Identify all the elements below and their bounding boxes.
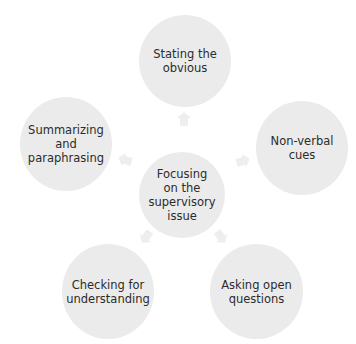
node-asking-open-questions: Asking open questions — [210, 244, 303, 339]
node-non-verbal-cues: Non-verbal cues — [256, 101, 348, 195]
node-label: Summarizing and paraphrasing — [28, 123, 104, 165]
radial-diagram: Stating the obvious Non-verbal cues Aski… — [0, 0, 356, 344]
node-stating-the-obvious: Stating the obvious — [139, 15, 231, 107]
node-label: Non-verbal cues — [271, 134, 334, 162]
node-label: Asking open questions — [221, 278, 292, 306]
node-summarizing-and-paraphrasing: Summarizing and paraphrasing — [20, 97, 112, 191]
node-label: Stating the obvious — [153, 47, 217, 75]
arrow-left-icon — [116, 151, 134, 169]
arrow-right-icon — [234, 152, 252, 170]
arrow-up-icon — [177, 112, 191, 126]
arrow-bottom-left-icon — [136, 227, 156, 247]
arrow-bottom-right-icon — [211, 227, 231, 247]
center-label: Focusing on the supervisory issue — [149, 167, 216, 223]
center-node-focusing: Focusing on the supervisory issue — [139, 152, 225, 238]
node-checking-for-understanding: Checking for understanding — [62, 244, 154, 339]
node-label: Checking for understanding — [66, 278, 150, 306]
